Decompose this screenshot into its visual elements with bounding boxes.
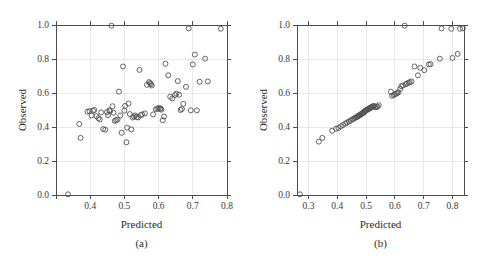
data-point	[163, 61, 168, 66]
data-point	[439, 26, 444, 31]
x-axis-tick-label: 0.8	[221, 201, 233, 211]
data-point	[412, 64, 417, 69]
data-point	[183, 84, 188, 89]
data-point	[65, 192, 70, 197]
x-axis-tick-label: 0.3	[303, 201, 315, 211]
y-axis-tick-label: 1.0	[278, 20, 290, 30]
data-points	[297, 23, 465, 197]
y-axis-tick-label: 0.0	[278, 190, 290, 200]
data-point	[151, 112, 156, 117]
y-axis-tick-label: 0.6	[37, 88, 49, 98]
data-point	[194, 108, 199, 113]
panel-caption: (a)	[135, 237, 148, 250]
plot-area: 0.30.40.50.60.70.80.00.20.40.60.81.0Pred…	[257, 20, 468, 250]
y-axis-title: Observed	[16, 88, 28, 131]
data-point	[110, 104, 115, 109]
data-point	[179, 106, 184, 111]
y-axis-tick-label: 0.8	[37, 54, 49, 64]
y-axis-tick-label: 0.8	[278, 54, 290, 64]
data-point	[218, 26, 223, 31]
data-point	[197, 79, 202, 84]
data-point	[118, 113, 123, 118]
x-axis-tick-label: 0.6	[153, 201, 165, 211]
plot-area: 0.40.50.60.70.80.00.20.40.60.81.0Predict…	[16, 20, 233, 250]
y-axis-tick-label: 0.2	[278, 156, 290, 166]
data-point	[119, 130, 124, 135]
data-point	[97, 117, 102, 122]
data-point	[78, 135, 83, 140]
y-axis-title: Observed	[257, 88, 269, 131]
x-axis-tick-label: 0.6	[389, 201, 401, 211]
x-axis-tick-label: 0.5	[360, 201, 372, 211]
figure-two-scatter-panels: 0.40.50.60.70.80.00.20.40.60.81.0Predict…	[0, 0, 482, 264]
data-points	[65, 23, 223, 197]
data-point	[166, 73, 171, 78]
x-axis-tick-label: 0.8	[447, 201, 459, 211]
y-axis-tick-label: 0.4	[37, 122, 49, 132]
x-axis-tick-label: 0.4	[331, 201, 343, 211]
x-axis-title: Predicted	[121, 218, 163, 230]
data-point	[186, 26, 191, 31]
data-point	[175, 79, 180, 84]
data-point	[297, 192, 302, 197]
x-axis-tick-label: 0.5	[118, 201, 130, 211]
plot-box-border	[297, 25, 464, 195]
panel-a: 0.40.50.60.70.80.00.20.40.60.81.0Predict…	[0, 0, 241, 264]
y-axis-tick-label: 0.0	[37, 190, 49, 200]
scatter-plot-b: 0.30.40.50.60.70.80.00.20.40.60.81.0Pred…	[241, 0, 482, 264]
plot-box-border	[56, 25, 227, 195]
data-point	[455, 51, 460, 56]
data-point	[181, 101, 186, 106]
data-point	[422, 68, 427, 73]
y-axis-tick-label: 0.2	[37, 156, 49, 166]
data-point	[205, 79, 210, 84]
x-axis-title: Predicted	[360, 218, 402, 230]
scatter-plot-a: 0.40.50.60.70.80.00.20.40.60.81.0Predict…	[0, 0, 241, 264]
x-axis-tick-label: 0.7	[418, 201, 430, 211]
panel-caption: (b)	[374, 237, 387, 250]
x-axis-tick-label: 0.4	[84, 201, 96, 211]
data-point	[320, 135, 325, 140]
y-axis-tick-label: 1.0	[37, 20, 49, 30]
y-axis-tick-label: 0.4	[278, 122, 290, 132]
data-point	[402, 23, 407, 28]
data-point	[449, 26, 454, 31]
data-point	[99, 110, 104, 115]
data-point	[109, 23, 114, 28]
x-axis-tick-label: 0.7	[187, 201, 199, 211]
y-axis-tick-label: 0.6	[278, 88, 290, 98]
data-point	[137, 67, 142, 72]
data-point	[415, 73, 420, 78]
panel-b: 0.30.40.50.60.70.80.00.20.40.60.81.0Pred…	[241, 0, 482, 264]
data-point	[77, 121, 82, 126]
